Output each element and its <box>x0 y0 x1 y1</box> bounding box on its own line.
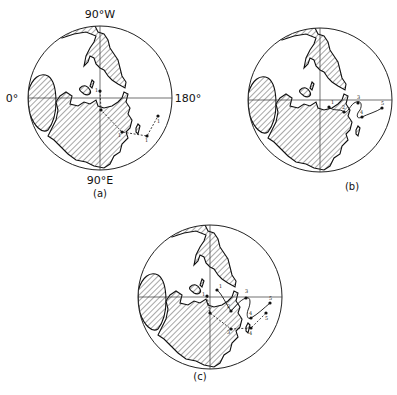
track-label: 3 <box>227 329 230 335</box>
track-label: 1 <box>219 283 222 289</box>
track-point <box>208 311 211 314</box>
panel-a: 1 1 1 1 90°W 0° 180° 90°E (a) <box>6 8 202 199</box>
track-label: 1 <box>331 99 334 105</box>
track-point <box>249 316 252 319</box>
track-point <box>98 89 101 92</box>
panel-caption-b: (b) <box>345 181 359 192</box>
track-label: 2 <box>227 303 230 309</box>
panel-caption-a: (a) <box>93 188 107 199</box>
panel-b: 1 2 3 4 5 (b) <box>248 27 392 192</box>
track-point <box>205 294 208 297</box>
track-label: 2 <box>342 104 345 110</box>
track-point <box>342 110 345 113</box>
track-label: 4 <box>360 109 363 115</box>
track-point <box>244 296 247 299</box>
track-label: 3 <box>357 94 360 100</box>
track-label: 3 <box>245 288 248 294</box>
track-label: 4 <box>249 330 252 336</box>
panel-c: 1 2 3 4 5 1 3 4 5 (c) <box>138 224 282 382</box>
track-point <box>360 115 363 118</box>
track-label: 1 <box>157 118 160 124</box>
continents-b <box>248 27 360 170</box>
track-point <box>99 108 102 111</box>
track-point <box>229 309 232 312</box>
track-point <box>268 301 271 304</box>
continents-c <box>138 224 250 367</box>
track-point <box>380 106 383 109</box>
continents-a <box>28 25 140 168</box>
label-0deg: 0° <box>6 92 19 105</box>
label-90e: 90°E <box>87 174 113 187</box>
track-label: 1 <box>118 132 121 138</box>
label-90w: 90°W <box>85 8 115 21</box>
track-label: 5 <box>265 315 268 321</box>
track-label: 1 <box>145 137 148 143</box>
panel-caption-c: (c) <box>193 371 206 382</box>
figure-canvas: 1 1 1 1 90°W 0° 180° 90°E (a) 1 2 3 4 5 … <box>0 0 397 395</box>
track-point <box>327 105 330 108</box>
track-label: 1 <box>95 87 98 93</box>
track-label: 5 <box>269 295 272 301</box>
track-label: 4 <box>249 310 252 316</box>
track-label: 1 <box>202 291 205 297</box>
label-180deg: 180° <box>175 92 202 105</box>
track-point <box>356 101 359 104</box>
track-label: 5 <box>381 100 384 106</box>
